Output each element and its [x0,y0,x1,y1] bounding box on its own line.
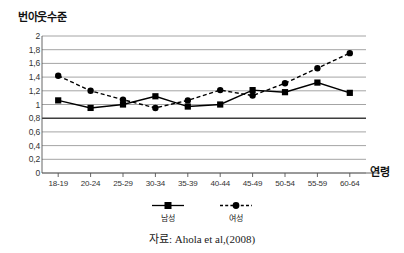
x-tick-label: 55-59 [308,179,327,188]
y-tick-label: 0,6 [4,128,40,136]
x-tick-label: 25-29 [113,179,132,188]
x-tick-label: 18-19 [48,179,67,188]
data-point [282,89,288,95]
burnout-by-age-chart: 번아웃수준 21,81,61,41,210,80,60,40,20 18-192… [0,0,404,253]
y-tick-label: 1,4 [4,73,40,81]
data-point [347,90,353,96]
data-point [152,105,158,111]
x-axis-tick-labels: 18-1920-2425-2930-3435-3940-4445-4950-54… [42,179,366,193]
legend-item-female: 여성 [219,200,253,223]
y-axis-title: 번아웃수준 [18,8,67,24]
x-tick-label: 35-39 [178,179,197,188]
data-point [314,79,320,85]
y-tick-label: 0,4 [4,142,40,150]
data-point [250,87,256,93]
plot-area [42,36,366,173]
data-point [120,97,126,103]
data-point [88,105,94,111]
y-tick-label: 1 [4,101,40,109]
x-tick-label: 30-34 [146,179,165,188]
y-tick-label: 1,2 [4,87,40,95]
y-tick-label: 2 [4,32,40,40]
data-point [314,65,320,71]
data-point [55,97,61,103]
data-point [185,97,191,103]
x-tick-label: 50-54 [275,179,294,188]
legend-label-female: 여성 [229,212,243,223]
legend: 남성 여성 [0,200,404,226]
data-point [185,103,191,109]
data-point [152,93,158,99]
data-point [55,73,61,79]
y-tick-label: 0,2 [4,155,40,163]
data-point [217,87,223,93]
x-tick-label: 45-49 [243,179,262,188]
data-point [249,92,255,98]
series-line-female [58,53,350,108]
y-tick-label: 0 [4,169,40,177]
y-tick-label: 1,6 [4,59,40,67]
x-tick-label: 20-24 [81,179,100,188]
data-point [347,50,353,56]
data-point [217,101,223,107]
source-caption: 자료: Ahola et al,(2008) [0,230,404,246]
data-point [87,88,93,94]
y-tick-label: 0,8 [4,114,40,122]
data-series-layer [42,36,366,173]
legend-swatch-solid-square-icon [151,200,185,211]
data-point [282,80,288,86]
x-tick-label: 40-44 [210,179,229,188]
legend-label-male: 남성 [161,212,175,223]
x-tick-label: 60-64 [340,179,359,188]
y-tick-label: 1,8 [4,46,40,54]
legend-item-male: 남성 [151,200,185,223]
legend-swatch-dashed-circle-icon [219,200,253,211]
y-axis-tick-labels: 21,81,61,41,210,80,60,40,20 [0,36,40,173]
x-axis-title: 연령 [370,163,389,179]
